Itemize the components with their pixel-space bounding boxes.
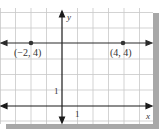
- x-axis-label: x: [145, 111, 150, 121]
- point-4-4: [121, 41, 126, 46]
- x-unit-label: 1: [75, 109, 80, 119]
- point-neg2-4: [29, 41, 34, 46]
- y-axis-label: y: [66, 12, 71, 22]
- coordinate-graph: (−2, 4) (4, 4) y x 1 1: [0, 0, 159, 129]
- point-label-neg2-4: (−2, 4): [14, 47, 41, 59]
- point-label-4-4: (4, 4): [110, 47, 132, 59]
- y-unit-label: 1: [54, 86, 59, 96]
